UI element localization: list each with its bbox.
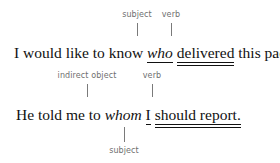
leader-line-indirect-object-example-2 <box>87 84 88 97</box>
label-verb-example-1: verb <box>162 10 180 19</box>
sentence-2-indirect-object-whom: whom <box>105 106 142 123</box>
sentence-2-subject-i: I <box>146 105 151 124</box>
label-verb-example-2: verb <box>143 71 161 80</box>
sentence-1-segment-tail: this package. <box>234 44 280 61</box>
leader-line-verb-example-2 <box>152 84 153 97</box>
label-subject-example-1: subject <box>122 10 152 19</box>
label-subject-example-2: subject <box>109 146 139 155</box>
sentence-example-2: He told me to whom I should report. <box>16 105 241 124</box>
leader-line-subject-example-1 <box>137 23 138 36</box>
sentence-1-segment-lead: I would like to know <box>14 44 147 61</box>
sentence-1-subject-who: who <box>147 43 173 62</box>
sentence-example-1: I would like to know who delivered this … <box>14 43 280 62</box>
sentence-2-segment-lead: He told me to <box>16 106 105 123</box>
grammar-diagram-page: subject verb I would like to know who de… <box>0 0 280 163</box>
sentence-1-verb-delivered: delivered <box>177 43 235 62</box>
label-indirect-object-example-2: indirect object <box>58 71 117 80</box>
leader-line-verb-example-1 <box>171 23 172 36</box>
leader-line-subject-example-2 <box>124 127 125 142</box>
sentence-2-verb-should-report: should report. <box>155 105 241 124</box>
